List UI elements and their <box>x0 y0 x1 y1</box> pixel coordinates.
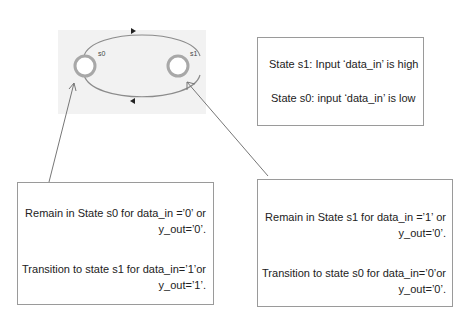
s0-description-box: Remain in State s0 for data_in =’0’ or y… <box>17 182 214 305</box>
state-label-s1: s1 <box>190 50 197 57</box>
pointer-line-s1 <box>187 82 268 176</box>
s0-transition-line2: y_out=’1’. <box>159 278 206 293</box>
s0-remain-line2: y_out=’0’. <box>159 222 206 237</box>
state-label-s0: s0 <box>98 50 105 57</box>
s1-transition-line1: Transition to state s0 for data_in=’0’or <box>262 266 446 281</box>
state-s0 <box>75 56 95 76</box>
s1-description-box: Remain in State s1 for data_in =’1’ or y… <box>257 179 453 307</box>
s0-transition-line1: Transition to state s1 for data_in=’1’or <box>22 262 206 277</box>
s0-remain-line1: Remain in State s0 for data_in =’0’ or <box>25 206 206 221</box>
s1-transition-line2: y_out=’0’. <box>399 282 446 297</box>
state-s1 <box>168 56 188 76</box>
s1-remain-line1: Remain in State s1 for data_in =’1’ or <box>265 210 446 225</box>
legend-line-s0: State s0: input ‘data_in’ is low <box>271 91 416 106</box>
legend-box: State s1: Input ‘data_in’ is high State … <box>257 37 424 126</box>
s1-remain-line2: y_out=’0’. <box>399 226 446 241</box>
legend-line-s1: State s1: Input ‘data_in’ is high <box>269 57 418 72</box>
